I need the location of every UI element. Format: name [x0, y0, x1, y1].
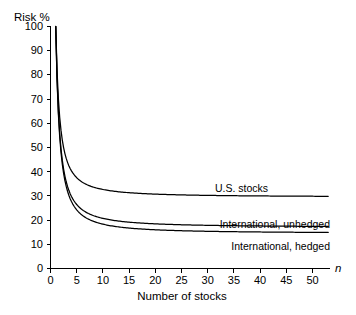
x-tick-label: 40: [254, 274, 266, 286]
x-tick-label: 10: [97, 274, 109, 286]
y-tick-label: 50: [31, 141, 43, 153]
series-line-us-stocks: [56, 27, 328, 197]
y-tick-label: 10: [31, 238, 43, 250]
x-tick-label: 45: [280, 274, 292, 286]
x-tick-label: 5: [74, 274, 80, 286]
y-tick-label: 60: [31, 117, 43, 129]
y-tick-label: 90: [31, 44, 43, 56]
series-label-international-hedged: International, hedged: [231, 240, 330, 252]
x-tick-label: 30: [202, 274, 214, 286]
x-axis-title: Number of stocks: [137, 290, 227, 302]
y-tick-label: 30: [31, 190, 43, 202]
y-tick-label: 40: [31, 166, 43, 178]
series-label-us-stocks: U.S. stocks: [215, 182, 268, 194]
y-tick-label: 20: [31, 214, 43, 226]
y-tick-label: 80: [31, 68, 43, 80]
y-tick-label: 0: [37, 262, 43, 274]
y-axis-ticks: [47, 27, 51, 269]
x-axis-ticks: [51, 269, 313, 273]
series-line-international-hedged: [56, 27, 328, 233]
x-tick-label: 20: [149, 274, 161, 286]
series-label-international-unhedged: International, unhedged: [220, 218, 331, 230]
x-tick-label: 35: [228, 274, 240, 286]
y-tick-label: 100: [25, 20, 43, 32]
x-tick-label: 15: [123, 274, 135, 286]
y-axis-tick-labels: 100 90 80 70 60 50 40 30 20 10 0: [25, 20, 43, 274]
x-tick-label: 0: [47, 274, 53, 286]
x-axis-tick-labels: 0 5 10 15 20 25 30 35 40 45 50: [47, 274, 318, 286]
chart-canvas: Risk % 100 90 80 70 60 50 40 30: [0, 0, 356, 315]
x-tick-label: 50: [306, 274, 318, 286]
y-tick-label: 70: [31, 93, 43, 105]
risk-diversification-chart: Risk % 100 90 80 70 60 50 40 30: [0, 0, 356, 315]
x-tick-label: 25: [175, 274, 187, 286]
x-axis-variable: n: [335, 262, 341, 274]
